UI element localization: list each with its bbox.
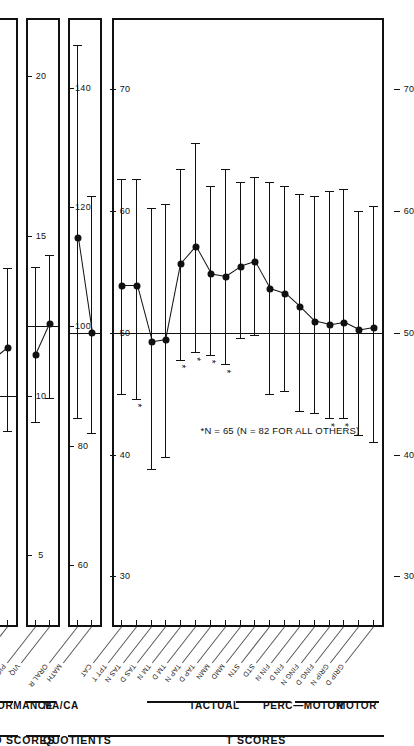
axis-tick-label: 50 <box>404 328 414 338</box>
group-label: PERC—MOTOR <box>263 700 344 711</box>
category-label: PIQ <box>0 663 7 677</box>
section-label: WISC SCALED SCORES <box>0 734 55 746</box>
error-bar-cap <box>3 268 12 269</box>
sample-size-footnote: *N = 65 (N = 82 FOR ALL OTHERS) <box>201 425 360 436</box>
group-label: MA/CA <box>43 700 79 711</box>
axis-tick-label: 30 <box>404 571 414 581</box>
group-label: TACTUAL <box>189 700 240 711</box>
section-label: T SCORES <box>226 734 286 746</box>
error-bar-cap <box>3 431 12 432</box>
reference-line <box>0 396 18 397</box>
axis-tick-label: 70 <box>404 84 414 94</box>
axis-tick-label: 60 <box>404 206 414 216</box>
axis-tick-label: 40 <box>404 450 414 460</box>
